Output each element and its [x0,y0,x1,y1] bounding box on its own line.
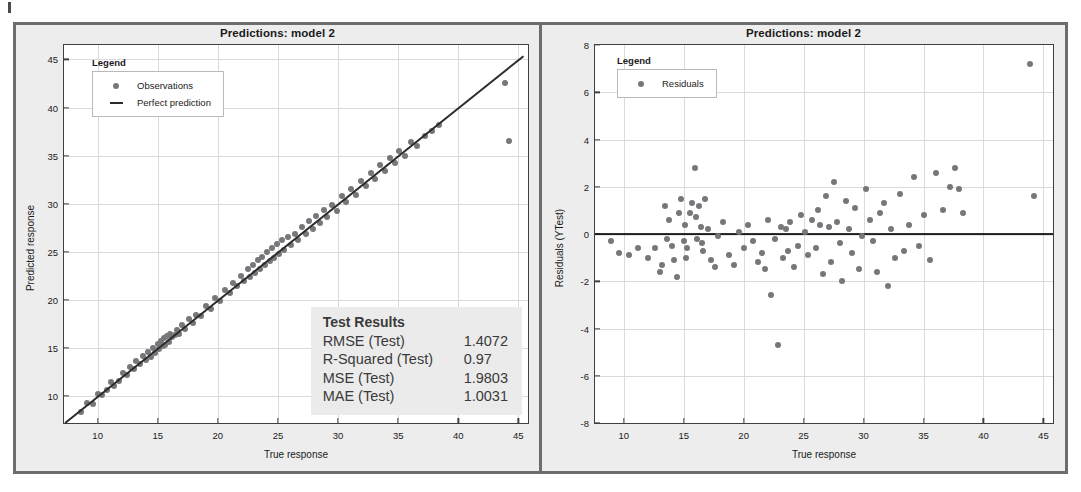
x-tick-label: 30 [858,423,869,441]
data-point [687,210,693,216]
data-point [1031,193,1037,199]
legend-item[interactable]: Perfect prediction [101,94,211,111]
data-point [798,212,804,218]
x-tick-label: 45 [513,423,524,441]
right-legend-title: Legend [617,55,717,66]
data-point [856,266,862,272]
test-results-row: MAE (Test) 1.0031 [323,387,508,406]
y-tick-label: 35 [47,150,64,161]
x-tick-label: 45 [1038,423,1049,441]
legend-item[interactable]: Residuals [626,75,704,92]
y-tick-mark [64,299,69,300]
y-tick-label: -8 [581,418,595,429]
data-point [506,138,512,144]
y-tick-label: 8 [584,40,595,51]
figure-frame: Predictions: model 2 Predicted response … [13,22,1068,474]
right-legend-box: Residuals [617,69,717,98]
perfect-prediction-line-icon [101,102,131,104]
test-results-row: R-Squared (Test) 0.97 [323,350,508,369]
y-tick-label: -4 [581,323,595,334]
data-point [906,222,912,228]
data-point [750,238,756,244]
data-point [940,207,946,213]
metric-value: 1.4072 [464,332,508,351]
data-point [683,255,689,261]
data-point [927,257,933,263]
right-panel-title: Predictions: model 2 [542,27,1065,39]
data-point [870,238,876,244]
x-tick-label: 25 [273,423,284,441]
data-point [616,250,622,256]
y-tick-label: 25 [47,246,64,257]
data-point [765,217,771,223]
x-tick-label: 40 [978,423,989,441]
metric-value: 1.9803 [464,369,508,388]
data-point [696,203,702,209]
data-point [828,259,834,265]
metric-value: 1.0031 [464,387,508,406]
data-point [846,226,852,232]
data-point [762,266,768,272]
data-point [662,203,668,209]
data-point [817,222,823,228]
y-tick-label: -2 [581,276,595,287]
legend-item[interactable]: Observations [101,77,211,94]
y-tick-mark [64,395,69,396]
data-point [837,240,843,246]
data-point [689,200,695,206]
data-point [863,186,869,192]
data-point [726,252,732,258]
y-tick-label: 4 [584,134,595,145]
data-point [699,240,705,246]
observations-marker-icon [101,83,131,89]
data-point [259,254,265,260]
y-tick-label: -6 [581,370,595,381]
data-point [652,245,658,251]
corner-mark [8,2,11,13]
test-results-panel: Test Results RMSE (Test) 1.4072 R-Square… [311,307,522,415]
data-point [657,269,663,275]
left-plot-area[interactable]: Legend Observations [63,44,529,424]
data-point [956,186,962,192]
data-point [682,222,688,228]
metric-name: RMSE (Test) [323,332,464,351]
legend-item-label: Observations [137,80,193,91]
data-point [831,179,837,185]
data-point [414,143,420,149]
data-point [285,234,291,240]
data-point [676,210,682,216]
legend-item-label: Residuals [662,78,704,89]
data-point [888,226,894,232]
data-point [715,233,721,239]
left-legend: Legend Observations [92,57,224,117]
data-point [874,269,880,275]
data-point [877,210,883,216]
data-point [645,255,651,261]
left-panel-title: Predictions: model 2 [16,27,539,39]
right-plot-area[interactable]: Legend Residuals -8-6-4-2024681015202530… [594,44,1054,424]
data-point [775,342,781,348]
y-tick-label: 2 [584,181,595,192]
data-point [626,252,632,258]
y-tick-mark [595,281,600,282]
x-tick-label: 20 [213,423,224,441]
data-point [820,271,826,277]
y-tick-label: 0 [584,229,595,240]
data-point [720,219,726,225]
y-tick-mark [595,139,600,140]
data-point [947,184,953,190]
test-results-row: RMSE (Test) 1.4072 [323,332,508,351]
data-point [952,165,958,171]
data-point [916,243,922,249]
data-point [635,245,641,251]
zero-reference-line [595,233,1053,235]
y-tick-mark [595,422,600,423]
data-point [881,200,887,206]
metric-name: MAE (Test) [323,387,464,406]
data-point [402,153,408,159]
data-point [671,257,677,263]
data-point [768,292,774,298]
data-point [698,224,704,230]
data-point [693,214,699,220]
y-tick-label: 30 [47,198,64,209]
